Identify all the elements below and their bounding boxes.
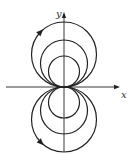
y-axis-arrowhead-icon [62, 12, 66, 18]
circle-family-diagram: x y [0, 0, 134, 154]
axes [6, 12, 120, 152]
x-axis-arrowhead-icon [114, 85, 120, 89]
y-axis-label: y [55, 8, 62, 19]
x-axis-label: x [121, 89, 127, 100]
